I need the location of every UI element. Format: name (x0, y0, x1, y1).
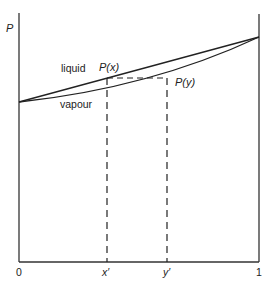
px-point-label: P(x) (99, 61, 120, 73)
x-tick-y-prime: y′ (162, 266, 171, 278)
x-tick-0: 0 (16, 266, 22, 278)
py-point-label: P(y) (175, 76, 196, 88)
y-axis-label: P (6, 22, 14, 34)
x-tick-x-prime: x′ (101, 266, 110, 278)
vapour-label: vapour (60, 98, 93, 110)
x-tick-1: 1 (256, 266, 262, 278)
liquid-label: liquid (61, 62, 86, 74)
pressure-composition-diagram: P liquid vapour P(x) P(y) 0 x′ y′ 1 (0, 0, 272, 283)
liquid-curve (19, 37, 259, 102)
